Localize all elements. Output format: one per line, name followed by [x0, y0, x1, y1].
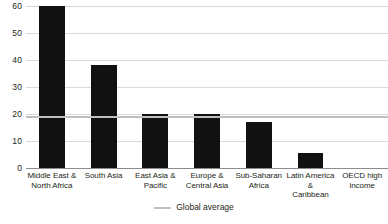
bar-slot: [181, 0, 233, 169]
x-label-line: East Asia &: [130, 171, 180, 181]
x-axis-category-labels: Middle East & North Africa South Asia Ea…: [26, 171, 388, 200]
bar-slot: [26, 0, 78, 169]
y-tick-label: 30: [0, 83, 22, 92]
y-tick-label: 10: [0, 137, 22, 146]
bar-slot: [285, 0, 337, 169]
legend-line-swatch: [154, 207, 171, 209]
x-label-europe-central-asia: Europe & Central Asia: [181, 171, 233, 200]
x-label-latin-america-caribbean: Latin America & Caribbean: [285, 171, 337, 200]
bar-middle-east-north-africa: [39, 6, 65, 168]
bar-east-asia-pacific: [142, 114, 168, 168]
x-label-sub-saharan-africa: Sub-Saharan Africa: [233, 171, 285, 200]
bar-latin-america-caribbean: [298, 153, 324, 168]
bar-chart: 60 50 40 30 20 10 0: [0, 0, 388, 224]
x-label-line: North Africa: [27, 181, 77, 191]
x-label-oecd-high-income: OECD high income: [336, 171, 388, 200]
global-average-line: [26, 116, 388, 118]
x-label-line: Africa: [234, 181, 284, 191]
x-label-line: Caribbean: [286, 190, 336, 200]
x-label-line: Europe &: [182, 171, 232, 181]
x-label-line: Pacific: [130, 181, 180, 191]
y-tick-label: 20: [0, 110, 22, 119]
x-label-south-asia: South Asia: [78, 171, 130, 200]
legend-label-global-average: Global average: [176, 203, 234, 212]
bar-sub-saharan-africa: [246, 122, 272, 168]
y-axis-tick-labels: 60 50 40 30 20 10 0: [0, 0, 22, 169]
y-tick-label: 0: [0, 164, 22, 173]
x-label-line: Latin America &: [286, 171, 336, 190]
x-label-east-asia-pacific: East Asia & Pacific: [129, 171, 181, 200]
x-label-middle-east-north-africa: Middle East & North Africa: [26, 171, 78, 200]
x-label-line: Central Asia: [182, 181, 232, 191]
x-label-line: Sub-Saharan: [234, 171, 284, 181]
y-tick-label: 40: [0, 56, 22, 65]
plot-area: [26, 0, 388, 169]
x-label-line: Middle East &: [27, 171, 77, 181]
y-tick-label: 50: [0, 29, 22, 38]
chart-legend: Global average: [0, 203, 388, 212]
bar-slot: [233, 0, 285, 169]
bar-europe-central-asia: [194, 114, 220, 168]
x-label-line: OECD high: [337, 171, 387, 181]
bar-slot: [129, 0, 181, 169]
x-label-line: South Asia: [79, 171, 129, 181]
bar-slot: [78, 0, 130, 169]
y-tick-label: 60: [0, 2, 22, 11]
x-label-line: income: [337, 181, 387, 191]
bar-series: [26, 0, 388, 169]
bar-slot: [336, 0, 388, 169]
